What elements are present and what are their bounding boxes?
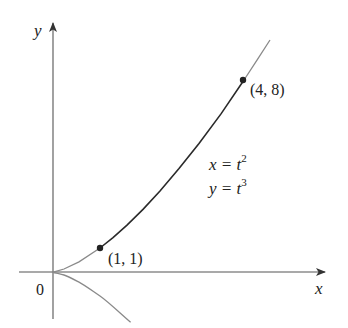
- y-axis-label: y: [32, 21, 42, 40]
- equation-y-exponent: 3: [241, 176, 247, 188]
- parametric-curve-figure: y x 0 (1, 1) (4, 8) x = t2 y = t3: [0, 0, 348, 328]
- point-label-1-1: (1, 1): [108, 250, 143, 268]
- equation-y-base: y = t: [207, 179, 243, 198]
- equation-x: x = t2: [208, 152, 247, 174]
- point-1-1: [97, 245, 103, 251]
- curve-upper-end: [244, 40, 270, 80]
- x-axis-label: x: [314, 279, 323, 298]
- point-4-8: [240, 77, 246, 83]
- equation-x-base: x = t: [208, 155, 243, 174]
- curve-upper-start: [52, 248, 100, 272]
- point-label-4-8: (4, 8): [250, 81, 285, 99]
- equation-x-exponent: 2: [241, 152, 247, 164]
- curve-lower-branch: [52, 272, 131, 322]
- equation-y: y = t3: [207, 176, 247, 198]
- origin-label: 0: [36, 281, 44, 298]
